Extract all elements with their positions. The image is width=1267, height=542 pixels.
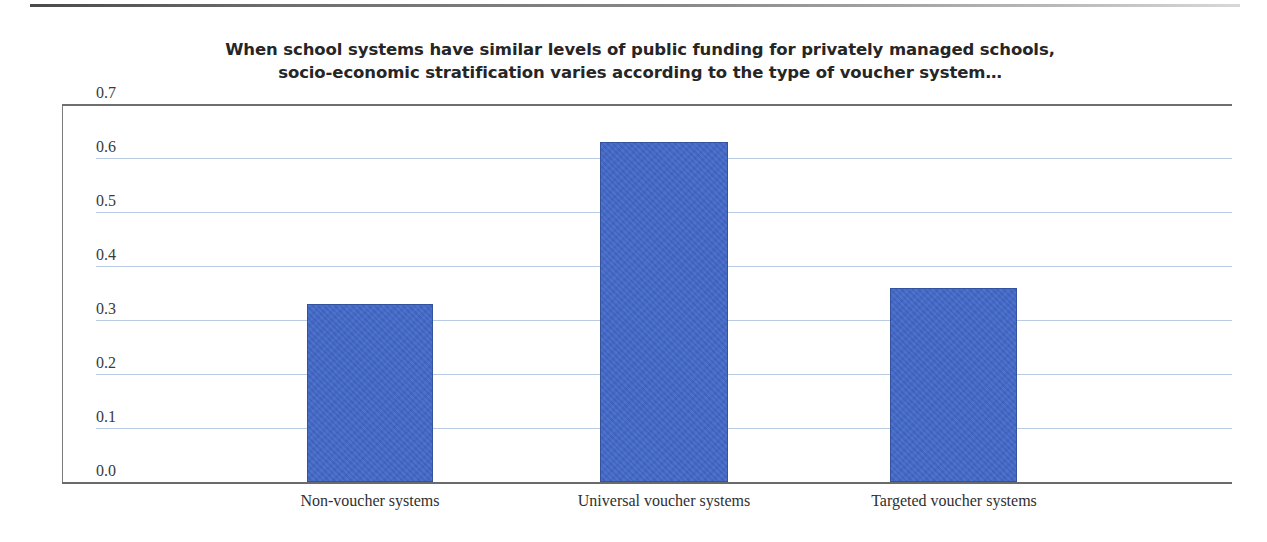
y-tick-label-0-7: 0.7 — [96, 84, 142, 104]
y-tick-label-0-3: 0.3 — [96, 300, 142, 320]
x-axis-line — [62, 482, 1232, 484]
y-tick-label-0-5: 0.5 — [96, 192, 142, 212]
x-tick-label-targeted-voucher-systems: Targeted voucher systems — [834, 492, 1074, 510]
x-tick-label-non-voucher-systems: Non-voucher systems — [250, 492, 490, 510]
y-tick-label-0-1: 0.1 — [96, 408, 142, 428]
bar-non-voucher-systems[interactable] — [307, 304, 433, 482]
y-tick-label-0-0: 0.0 — [96, 462, 142, 482]
y-axis-line — [62, 104, 63, 484]
chart-plot-area: Socio-economic index point difference (p… — [0, 0, 1267, 542]
y-tick-label-0-2: 0.2 — [96, 354, 142, 374]
gridline-top — [62, 104, 1232, 106]
y-tick-label-0-6: 0.6 — [96, 138, 142, 158]
bar-targeted-voucher-systems[interactable] — [890, 288, 1017, 482]
bar-universal-voucher-systems[interactable] — [600, 142, 728, 482]
y-tick-label-0-4: 0.4 — [96, 246, 142, 266]
x-tick-label-universal-voucher-systems: Universal voucher systems — [544, 492, 784, 510]
